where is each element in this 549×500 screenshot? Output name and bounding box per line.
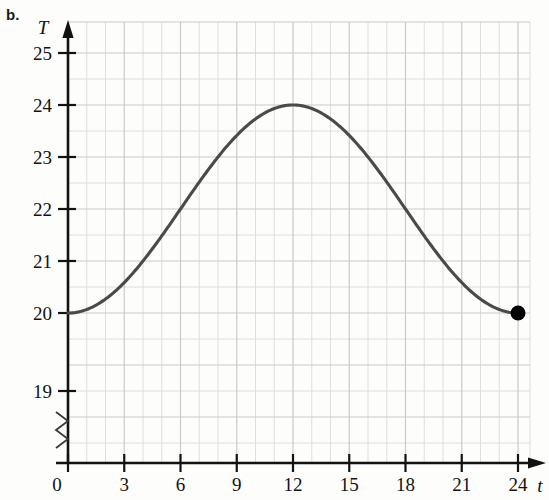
x-tick-label-24: 24 (509, 474, 529, 495)
x-axis-label: t (537, 475, 543, 496)
y-axis (62, 20, 73, 463)
x-tick-label-0: 0 (52, 474, 62, 495)
figure-container: b. (0, 0, 549, 500)
x-tick-label-3: 3 (120, 474, 130, 495)
x-tick-label-9: 9 (232, 474, 242, 495)
x-tick-label-6: 6 (176, 474, 186, 495)
x-tick-label-21: 21 (452, 474, 471, 495)
y-tick-label-19: 19 (33, 381, 52, 402)
x-tick-label-15: 15 (340, 474, 359, 495)
x-axis (56, 458, 546, 469)
x-tick-label-12: 12 (284, 474, 303, 495)
x-tick-label-18: 18 (396, 474, 415, 495)
y-tick-label-24: 24 (33, 95, 53, 116)
endpoint-dot (511, 306, 526, 321)
y-tick-label-21: 21 (33, 251, 52, 272)
y-tick-label-20: 20 (33, 303, 52, 324)
axis-break-symbol (56, 412, 68, 448)
y-tick-label-22: 22 (33, 199, 52, 220)
temperature-graph: 25 24 23 22 21 20 19 0 3 6 9 12 15 18 21… (0, 0, 549, 500)
grid-major-vertical (124, 22, 518, 462)
y-tick-label-25: 25 (33, 43, 52, 64)
grid-major-horizontal (68, 22, 530, 417)
y-tick-label-23: 23 (33, 147, 52, 168)
grid-minor-vertical (87, 22, 530, 462)
y-axis-label: T (38, 17, 50, 38)
